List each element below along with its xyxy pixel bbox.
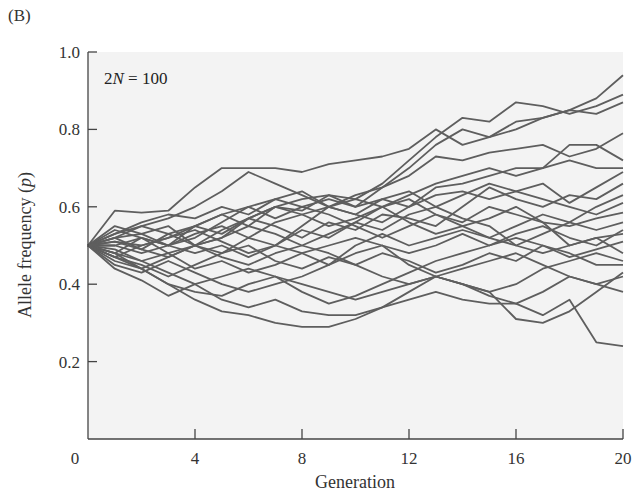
population-size-annotation: 2N = 100 bbox=[104, 69, 167, 88]
x-tick-label: 4 bbox=[191, 449, 200, 468]
y-axis-title: Allele frequency (p) bbox=[15, 172, 36, 318]
y-tick-label: 1.0 bbox=[59, 43, 80, 62]
x-tick-label: 20 bbox=[615, 449, 632, 468]
x-tick-label: 0 bbox=[71, 449, 80, 468]
y-tick-label: 0.6 bbox=[59, 198, 80, 217]
x-tick-label: 16 bbox=[508, 449, 525, 468]
y-tick-label: 0.8 bbox=[59, 120, 80, 139]
y-tick-label: 0.2 bbox=[59, 353, 80, 372]
x-tick-label: 12 bbox=[401, 449, 418, 468]
y-tick-label: 0.4 bbox=[59, 275, 81, 294]
x-tick-label: 8 bbox=[298, 449, 307, 468]
x-axis-title: Generation bbox=[315, 472, 395, 492]
allele-frequency-chart: 0.20.40.60.81.0048121620 2N = 100 Genera… bbox=[0, 0, 642, 496]
